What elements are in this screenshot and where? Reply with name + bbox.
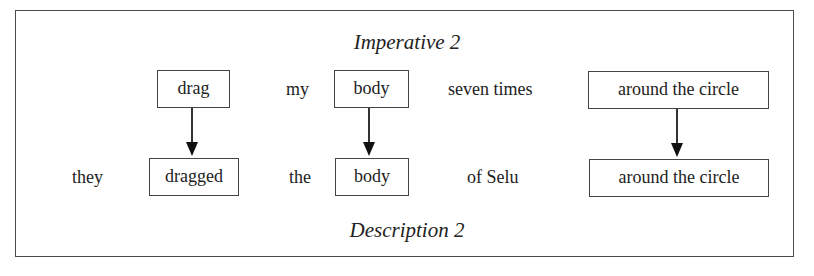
arrowhead-icon xyxy=(671,143,683,157)
box-body-top: body xyxy=(334,70,409,108)
box-body-bottom: body xyxy=(335,158,409,196)
word-they: they xyxy=(72,158,103,196)
word-the: the xyxy=(289,158,311,196)
box-dragged: dragged xyxy=(149,158,239,196)
word-of-selu: of Selu xyxy=(467,158,519,196)
imperative-title: Imperative 2 xyxy=(0,30,814,55)
box-around-bottom: around the circle xyxy=(589,159,769,197)
arrowhead-icon xyxy=(186,142,198,156)
word-my: my xyxy=(286,70,309,108)
word-seven-times: seven times xyxy=(448,70,532,108)
box-around-top: around the circle xyxy=(588,71,769,109)
arrowhead-icon xyxy=(363,142,375,156)
description-title: Description 2 xyxy=(0,218,814,243)
box-drag: drag xyxy=(157,70,230,108)
